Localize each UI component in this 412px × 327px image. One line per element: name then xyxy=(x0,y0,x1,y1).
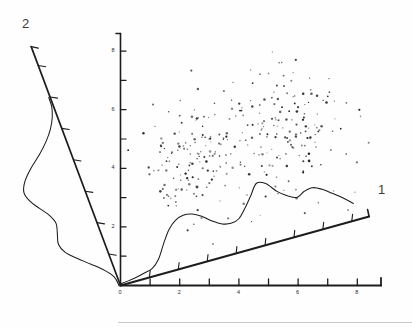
axis-label-projection-2: 2 xyxy=(22,17,29,30)
scatter-points xyxy=(127,51,369,244)
axis-label-projection-1: 1 xyxy=(378,183,385,196)
y-tick-label: 6 xyxy=(112,107,115,113)
page-bottom-rule xyxy=(118,322,412,323)
x-tick-label: 6 xyxy=(296,290,299,296)
x-tick-label: 2 xyxy=(178,290,181,296)
y-tick-label: 4 xyxy=(112,165,115,171)
axis-projection-1 xyxy=(121,210,382,286)
x-tick-label: 0 xyxy=(119,290,122,296)
x-tick-label: 4 xyxy=(237,290,240,296)
y-tick-label: 8 xyxy=(112,48,115,54)
projection-pursuit-figure: 2 1 024682468 xyxy=(0,0,412,327)
plot-canvas xyxy=(0,0,412,327)
marginal-density-projection-2 xyxy=(24,97,120,286)
y-tick-label: 2 xyxy=(112,224,115,230)
axis-projection-2 xyxy=(31,47,120,286)
marginal-density-projection-1 xyxy=(120,182,353,284)
x-tick-label: 8 xyxy=(355,290,358,296)
vertical-reference-axis xyxy=(116,34,126,286)
